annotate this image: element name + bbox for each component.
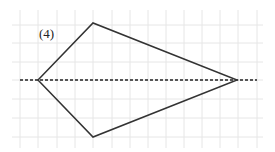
figure-label: (4) bbox=[39, 27, 54, 40]
kite-diagram bbox=[0, 0, 275, 152]
